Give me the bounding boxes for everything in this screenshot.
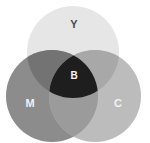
venn-label-black: B (70, 70, 77, 81)
venn-label-yellow: Y (70, 18, 78, 30)
venn-label-magenta: M (25, 97, 34, 109)
venn-label-cyan: C (114, 97, 122, 109)
venn-diagram-canvas: Y M C B (0, 0, 150, 143)
venn-diagram-figure: Y M C B (0, 0, 150, 143)
